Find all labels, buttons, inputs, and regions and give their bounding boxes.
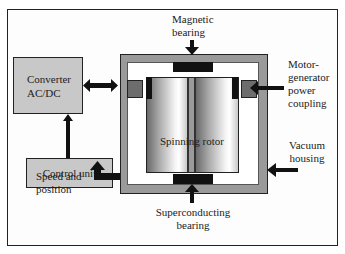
magnetic-bearing-arrow-icon <box>185 40 199 55</box>
vacuum-housing-arrow-icon <box>267 163 298 177</box>
speed-position-label: Speed and position <box>36 170 82 196</box>
feedback-arrow-icon <box>90 161 120 180</box>
motor-generator-arrow-icon <box>250 81 284 95</box>
superconducting-bearing-label: Superconducting bearing <box>152 206 234 232</box>
up-arrow-icon <box>63 114 73 158</box>
vacuum-housing-label: Vacuum housing <box>279 139 335 165</box>
motor-generator-label: Motor- generator power coupling <box>288 58 330 110</box>
magnetic-bearing-label: Magnetic bearing <box>172 13 222 39</box>
superconducting-bearing-arrow-icon <box>185 184 199 203</box>
double-arrow-icon <box>83 79 118 92</box>
